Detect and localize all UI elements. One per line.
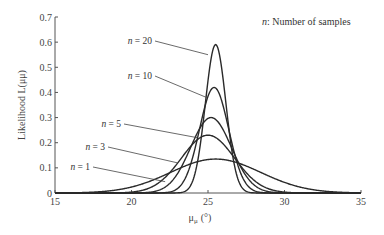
x-tick-label: 20: [127, 196, 137, 207]
y-tick-label: 0.3: [40, 112, 53, 123]
x-tick-label: 35: [356, 196, 366, 207]
series-labels: n = 1n = 3n = 5n = 10n = 20: [70, 36, 208, 182]
series-label: n = 3: [85, 142, 105, 152]
y-tick-label: 0.4: [40, 87, 53, 98]
x-axis-title: μμ(°): [189, 212, 212, 225]
series-label: n = 5: [101, 119, 121, 129]
leader-line: [124, 124, 197, 138]
series-label: n = 10: [128, 71, 153, 81]
y-tick-label: 0.7: [40, 12, 53, 23]
curve-n1: [55, 159, 361, 193]
axes: 152025303500.10.20.30.40.50.60.7: [40, 12, 367, 208]
y-tick-label: 0.1: [40, 162, 53, 173]
series-label: n = 20: [128, 36, 153, 46]
y-tick-label: 0.6: [40, 37, 53, 48]
curve-n10: [55, 87, 361, 193]
y-tick-label: 0: [47, 188, 52, 199]
annotation: n: Number of samples: [262, 16, 351, 27]
leader-line: [155, 76, 206, 97]
leader-line: [155, 41, 208, 55]
leader-line: [108, 147, 177, 163]
leader-line: [93, 167, 165, 182]
y-axis-title: Likelihood L(μμ): [16, 70, 28, 140]
x-tick-label: 25: [203, 196, 213, 207]
y-tick-label: 0.2: [40, 137, 53, 148]
series-label: n = 1: [70, 162, 90, 172]
x-tick-label: 30: [280, 196, 290, 207]
y-tick-label: 0.5: [40, 62, 53, 73]
likelihood-chart: 152025303500.10.20.30.40.50.60.7 n = 1n …: [0, 0, 384, 235]
